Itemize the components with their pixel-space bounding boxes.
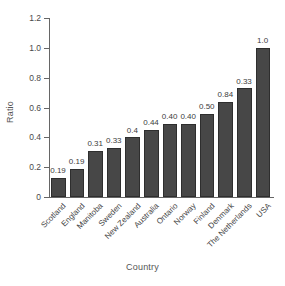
x-axis-tick-labels: ScotlandEnglandManitobaSwedenNew Zealand… [0, 0, 285, 286]
x-axis-title: Country [0, 262, 285, 272]
bar-chart-figure: Ratio 00.20.40.60.81.01.2 0.190.190.310.… [0, 0, 285, 286]
